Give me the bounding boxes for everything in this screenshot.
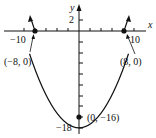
leader-left-arrow-icon (32, 34, 36, 39)
x-tick-label-right: 10 (130, 34, 140, 45)
left-arrow-icon (28, 15, 33, 22)
y-axis-arrow-icon (77, 4, 82, 11)
y-axis-label: y (69, 2, 75, 13)
point-8-0 (121, 28, 126, 33)
parabola-graph: y x 2 −18 −10 10 (−8, 0) (8, 0) (0, −16) (0, 0, 156, 138)
annotation-vertex: (0, −16) (87, 112, 119, 124)
y-tick-label-top: 2 (69, 14, 74, 25)
x-axis-label: x (147, 19, 153, 30)
annotation-neg8-0: (−8, 0) (4, 56, 31, 68)
right-arrow-icon (126, 15, 131, 22)
y-tick-label-bottom: −18 (56, 122, 72, 133)
x-tick-label-left: −10 (10, 34, 26, 45)
y-ticks (79, 20, 83, 128)
point-vertex (76, 114, 81, 119)
point-neg8-0 (32, 28, 37, 33)
leader-left (30, 37, 33, 52)
annotation-8-0: (8, 0) (120, 56, 142, 68)
